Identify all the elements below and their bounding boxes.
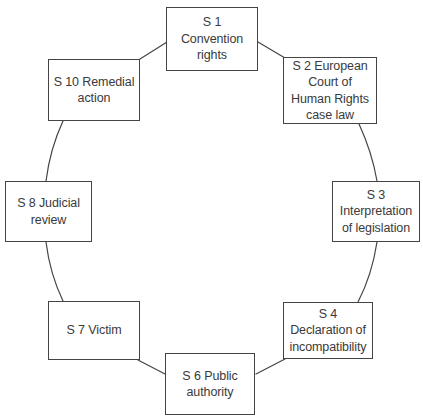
node-s1-label: S 1 Convention rights [167, 14, 257, 64]
node-s7-label: S 7 Victim [63, 322, 124, 339]
connector-s8-to-s10 [46, 121, 63, 181]
connector-s10-to-s1 [140, 42, 167, 59]
connector-s7-to-s8 [46, 242, 63, 301]
node-s2[interactable]: S 2 European Court of Human Rights case … [283, 57, 377, 124]
node-s3-label: S 3 Interpretation of legislation [337, 187, 415, 237]
node-s2-label: S 2 European Court of Human Rights case … [288, 58, 372, 124]
node-s10[interactable]: S 10 Remedial action [48, 59, 140, 121]
node-s1[interactable]: S 1 Convention rights [166, 7, 258, 71]
node-s6[interactable]: S 6 Public authority [165, 353, 255, 415]
node-s3[interactable]: S 3 Interpretation of legislation [332, 181, 420, 242]
node-s8[interactable]: S 8 Judicial review [5, 181, 92, 242]
node-s10-label: S 10 Remedial action [51, 74, 138, 107]
node-s8-label: S 8 Judicial review [14, 195, 83, 228]
node-s6-label: S 6 Public authority [179, 368, 240, 401]
connector-s3-to-s4 [358, 242, 377, 302]
connector-s6-to-s7 [138, 360, 165, 374]
node-s4-label: S 4 Declaration of incompatibility [286, 306, 369, 356]
connector-s4-to-s6 [256, 359, 285, 374]
cycle-diagram: S 1 Convention rightsS 2 European Court … [0, 0, 423, 420]
connector-s1-to-s2 [258, 42, 285, 58]
node-s4[interactable]: S 4 Declaration of incompatibility [283, 302, 373, 359]
node-s7[interactable]: S 7 Victim [48, 301, 140, 360]
connector-s2-to-s3 [359, 124, 377, 181]
